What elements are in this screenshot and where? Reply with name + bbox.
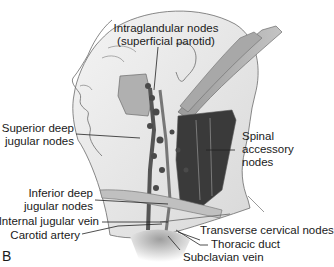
label-spinal-accessory-nodes: Spinal accessory nodes bbox=[242, 130, 294, 169]
label-thoracic-duct: Thoracic duct bbox=[211, 238, 280, 251]
subclavian-region bbox=[130, 230, 190, 262]
label-transverse-cervical-nodes: Transverse cervical nodes bbox=[200, 224, 334, 237]
label-line: Intraglandular nodes bbox=[114, 22, 219, 35]
label-line: jugular nodes bbox=[24, 200, 93, 213]
label-subclavian-vein: Subclavian vein bbox=[183, 251, 264, 264]
label-line: Transverse cervical nodes bbox=[200, 224, 334, 237]
label-line: Superior deep bbox=[2, 122, 74, 135]
label-intraglandular-nodes: Intraglandular nodes (superficial paroti… bbox=[114, 22, 219, 48]
panel-letter: B bbox=[2, 248, 11, 264]
label-line: accessory bbox=[242, 143, 294, 156]
label-line: Carotid artery bbox=[10, 229, 80, 242]
label-line: Subclavian vein bbox=[183, 251, 264, 264]
label-internal-jugular-vein: Internal jugular vein bbox=[0, 215, 99, 228]
label-carotid-artery: Carotid artery bbox=[10, 229, 80, 242]
label-line: Thoracic duct bbox=[211, 238, 280, 251]
label-inferior-deep-jugular-nodes: Inferior deep jugular nodes bbox=[24, 187, 93, 213]
label-line: Internal jugular vein bbox=[0, 215, 99, 228]
label-line: jugular nodes bbox=[2, 135, 74, 148]
label-line: Spinal bbox=[242, 130, 294, 143]
label-line: (superficial parotid) bbox=[114, 35, 219, 48]
label-superior-deep-jugular-nodes: Superior deep jugular nodes bbox=[2, 122, 74, 148]
label-line: nodes bbox=[242, 156, 294, 169]
label-line: Inferior deep bbox=[24, 187, 93, 200]
